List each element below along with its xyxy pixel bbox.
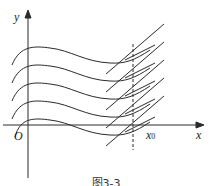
curve-4 bbox=[12, 101, 150, 119]
y-axis-label: y bbox=[14, 10, 19, 25]
curve-3 bbox=[12, 83, 150, 101]
x0-label-subscript: 0 bbox=[151, 132, 155, 141]
figure-caption: 图3-3 bbox=[0, 174, 212, 186]
curve-family bbox=[12, 47, 150, 137]
origin-label: O bbox=[14, 129, 23, 144]
x-axis-label: x bbox=[196, 128, 201, 143]
curve-1 bbox=[12, 47, 150, 65]
figure-svg bbox=[0, 0, 212, 186]
y-axis-arrow-icon bbox=[25, 10, 31, 18]
curve-2 bbox=[12, 65, 150, 83]
short-segments bbox=[125, 45, 155, 132]
curve-5 bbox=[15, 119, 150, 137]
x0-label: x0 bbox=[146, 128, 155, 143]
